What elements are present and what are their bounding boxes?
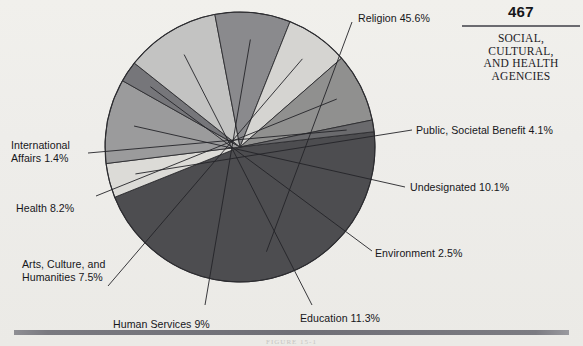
slice-label-text-line-1: Arts, Culture, and	[22, 258, 105, 271]
figure-caption: FIGURE 15-1	[0, 338, 583, 346]
slice-label-religion: Religion 45.6%	[358, 12, 430, 25]
slice-label-health: Health 8.2%	[16, 202, 74, 215]
slice-label-text: Health 8.2%	[16, 202, 74, 215]
slice-label-text: Environment 2.5%	[375, 247, 462, 260]
pie-chart	[0, 0, 583, 346]
slice-label-international-affairs: International Affairs 1.4%	[11, 139, 70, 165]
slice-label-environment: Environment 2.5%	[375, 247, 462, 260]
slice-label-text-line-1: International	[11, 139, 70, 152]
slice-label-text-line-2: Humanities 7.5%	[22, 271, 105, 284]
slice-label-public-societal-benefit: Public, Societal Benefit 4.1%	[416, 124, 553, 137]
slice-label-undesignated: Undesignated 10.1%	[410, 181, 509, 194]
figure-page: 467 SOCIAL, CULTURAL, AND HEALTH AGENCIE…	[0, 0, 583, 346]
slice-label-text: Undesignated 10.1%	[410, 181, 509, 194]
slice-label-text-line-2: Affairs 1.4%	[11, 152, 70, 165]
slice-label-arts-culture-humanities: Arts, Culture, and Humanities 7.5%	[22, 258, 105, 284]
slice-label-education: Education 11.3%	[300, 312, 380, 325]
footer-rule	[14, 330, 569, 335]
slice-label-text: Education 11.3%	[300, 312, 380, 325]
slice-label-text: Public, Societal Benefit 4.1%	[416, 124, 553, 137]
slice-label-text: Religion 45.6%	[358, 12, 430, 25]
pie-chart-svg	[0, 0, 583, 346]
